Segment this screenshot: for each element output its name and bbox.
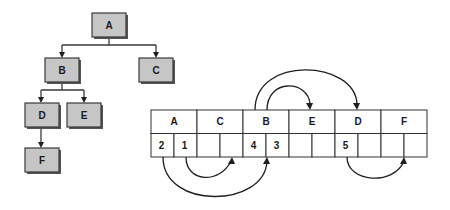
child-slot-value: 4 bbox=[251, 140, 257, 151]
arrowhead-link-b3-to-e bbox=[306, 103, 313, 110]
tree-node-e: E bbox=[67, 103, 103, 129]
node-label: E bbox=[81, 110, 88, 121]
tree-node-d: D bbox=[25, 103, 61, 129]
tree-node-b: B bbox=[45, 58, 81, 84]
edge-b-d-e-bracket bbox=[41, 82, 84, 100]
child-slot bbox=[289, 134, 312, 158]
arrowhead-to-b bbox=[59, 52, 65, 58]
child-slot bbox=[312, 134, 335, 158]
edge-a-b-c-bracket bbox=[62, 37, 156, 55]
tree-node-a: A bbox=[92, 13, 128, 39]
child-slot bbox=[404, 134, 427, 158]
node-label: A bbox=[105, 20, 112, 31]
child-slot bbox=[381, 134, 404, 158]
arrowhead-to-f bbox=[38, 142, 44, 148]
label-text: F bbox=[401, 116, 407, 127]
tree-node-c: C bbox=[139, 58, 175, 84]
label-text: D bbox=[354, 116, 361, 127]
arrowhead-link-a1-to-c bbox=[228, 157, 235, 164]
label-text: A bbox=[170, 116, 177, 127]
array-entry-a: A21 bbox=[151, 110, 197, 157]
child-slot-value: 2 bbox=[159, 140, 165, 151]
link-b4-to-d bbox=[255, 70, 357, 110]
link-d5-to-f bbox=[347, 157, 404, 178]
child-slot bbox=[358, 134, 381, 158]
array-entry-f: F bbox=[381, 110, 427, 157]
child-slot bbox=[220, 134, 243, 158]
child-slot bbox=[197, 134, 220, 158]
child-slot-value: 1 bbox=[182, 140, 188, 151]
node-label: B bbox=[58, 65, 65, 76]
node-label: C bbox=[152, 65, 159, 76]
arrowhead-to-c bbox=[153, 52, 159, 58]
arrowhead-to-e bbox=[81, 97, 87, 103]
link-b3-to-e bbox=[267, 86, 310, 110]
tree-edges bbox=[38, 37, 159, 148]
child-slot-value: 3 bbox=[274, 140, 280, 151]
array-table: A21CB43ED5F bbox=[151, 110, 427, 157]
array-entry-d: D5 bbox=[335, 110, 381, 157]
arrowhead-link-b4-to-d bbox=[353, 103, 360, 110]
child-slot-value: 5 bbox=[343, 140, 349, 151]
arrowhead-link-a2-to-b bbox=[263, 157, 270, 164]
tree-node-f: F bbox=[25, 148, 61, 174]
array-entry-e: E bbox=[289, 110, 335, 157]
label-text: E bbox=[309, 116, 316, 127]
array-entry-c: C bbox=[197, 110, 243, 157]
label-text: B bbox=[262, 116, 269, 127]
node-label: D bbox=[38, 110, 45, 121]
node-label: F bbox=[39, 155, 45, 166]
link-a2-to-b bbox=[163, 157, 267, 197]
label-text: C bbox=[216, 116, 223, 127]
array-entry-b: B43 bbox=[243, 110, 289, 157]
arrowhead-link-d5-to-f bbox=[400, 157, 407, 164]
link-a1-to-c bbox=[186, 157, 231, 177]
arrowhead-to-d bbox=[38, 97, 44, 103]
diagram-canvas: ABCDEF A21CB43ED5F bbox=[0, 0, 450, 210]
